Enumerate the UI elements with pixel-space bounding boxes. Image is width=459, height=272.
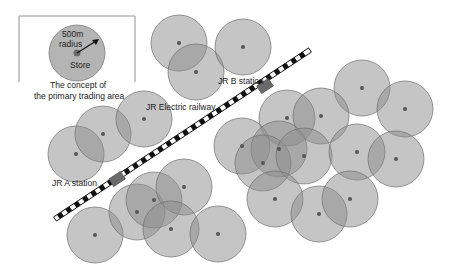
legend: 500m radius Store The concept of the pri… xyxy=(19,16,135,101)
store-dot xyxy=(317,212,321,216)
store-dot xyxy=(142,117,146,121)
store-dot xyxy=(194,70,198,74)
station-label-a: JR A station xyxy=(52,178,97,188)
store-dot xyxy=(394,157,398,161)
store-dot xyxy=(169,227,173,231)
radius-label: 500m xyxy=(62,29,83,39)
store-dot xyxy=(348,197,352,201)
store-dot xyxy=(177,41,181,45)
store-dot xyxy=(216,232,220,236)
store-dot xyxy=(74,152,78,156)
store-dot xyxy=(277,147,281,151)
store-dot xyxy=(285,116,289,120)
railway-label: JR Electric railway xyxy=(146,102,216,112)
trading-area-diagram: 500m radius Store The concept of the pri… xyxy=(0,0,459,272)
store-dot xyxy=(261,161,265,165)
store-trading-areas xyxy=(48,15,433,263)
radius-label: radius xyxy=(59,39,82,49)
store-dot xyxy=(360,86,364,90)
store-dot xyxy=(182,185,186,189)
store-dot xyxy=(93,233,97,237)
legend-caption: the primary trading area xyxy=(34,91,125,101)
station-label-b: JR B station xyxy=(218,76,264,86)
store-dot xyxy=(355,150,359,154)
store-dot xyxy=(319,114,323,118)
store-dot xyxy=(241,45,245,49)
store-label: Store xyxy=(70,60,91,70)
store-dot xyxy=(240,144,244,148)
store-dot xyxy=(101,132,105,136)
legend-caption: The concept of xyxy=(50,80,107,90)
store-dot xyxy=(135,210,139,214)
store-dot xyxy=(403,107,407,111)
store-dot xyxy=(273,197,277,201)
store-dot xyxy=(152,198,156,202)
store-dot xyxy=(302,154,306,158)
